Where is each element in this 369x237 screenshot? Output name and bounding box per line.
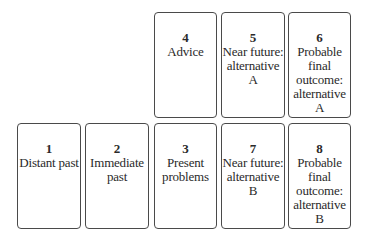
card-label: Probable final outcome: alternative A (289, 45, 350, 115)
card-number: 1 (18, 142, 80, 156)
card-8: 8 Probable final outcome: alternative B (288, 123, 351, 229)
card-number: 8 (289, 142, 350, 156)
card-5: 5 Near future: alternative A (221, 12, 285, 118)
card-number: 2 (86, 142, 148, 156)
card-3: 3 Present problems (154, 123, 217, 229)
card-label: Distant past (18, 156, 80, 170)
card-number: 3 (155, 142, 216, 156)
card-1: 1 Distant past (17, 123, 81, 229)
card-number: 7 (222, 142, 284, 156)
card-6: 6 Probable final outcome: alternative A (288, 12, 351, 118)
card-label: Probable final outcome: alternative B (289, 156, 350, 226)
card-label: Near future: alternative B (222, 156, 284, 198)
card-4: 4 Advice (154, 12, 217, 118)
card-label: Present problems (155, 156, 216, 184)
card-number: 5 (222, 31, 284, 45)
card-number: 4 (155, 31, 216, 45)
card-label: Advice (155, 45, 216, 59)
card-label: Immediate past (86, 156, 148, 184)
card-number: 6 (289, 31, 350, 45)
card-label: Near future: alternative A (222, 45, 284, 87)
card-7: 7 Near future: alternative B (221, 123, 285, 229)
card-2: 2 Immediate past (85, 123, 149, 229)
